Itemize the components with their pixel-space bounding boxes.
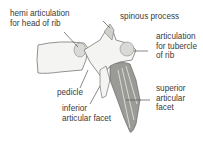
leader-pedicle: [80, 70, 88, 88]
leader-inferior: [90, 86, 100, 104]
label-inferior-facet: inferior articular facet: [62, 104, 111, 123]
label-hemi-articulation: hemi articulation for head of rib: [10, 9, 70, 28]
label-spinous-process: spinous process: [120, 12, 179, 22]
inferior-articular-process: [100, 66, 110, 98]
label-pedicle: pedicle: [57, 88, 83, 98]
label-superior-facet: superior articular facet: [156, 84, 186, 113]
tubercle-facet: [120, 42, 134, 56]
superior-articular-process: [110, 62, 140, 132]
label-articulation-tubercle: articulation for tubercle of rib: [156, 32, 197, 61]
leader-spinous: [103, 21, 110, 28]
